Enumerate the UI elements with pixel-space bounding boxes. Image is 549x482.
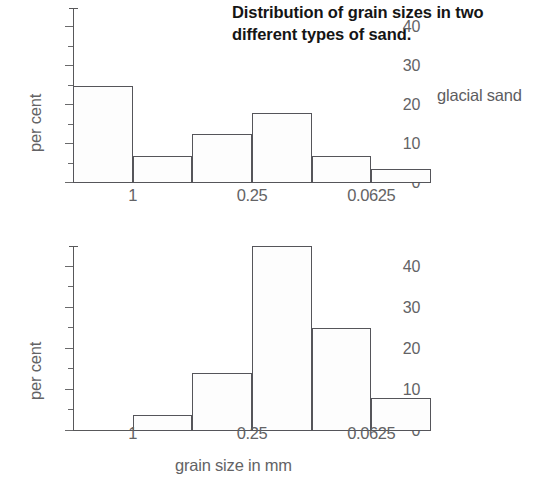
y-tick-0-glacial xyxy=(65,182,73,183)
x-tick-label-00625-beach: 0.0625 xyxy=(347,424,395,443)
x-tick-label-1-glacial: 1 xyxy=(128,186,137,205)
y-axis-title-beach: per cent xyxy=(26,342,45,400)
chart-panel-glacial-sand: per cent 40 30 20 10 0 1 0.25 0.0625 gla… xyxy=(0,0,549,222)
y-tick-label-30-beach: 30 xyxy=(403,299,420,317)
y-tick-5-beach xyxy=(68,409,73,410)
y-tick-label-40-glacial: 40 xyxy=(403,18,420,36)
y-tick-label-40-beach: 40 xyxy=(403,258,420,276)
y-tick-30-glacial xyxy=(65,65,73,66)
y-tick-label-20-beach: 20 xyxy=(403,340,420,358)
x-tick-labels-beach: 1 0.25 0.0625 xyxy=(73,424,431,448)
y-tick-label-10-beach: 10 xyxy=(403,381,420,399)
bar-glacial-bin-1 xyxy=(73,86,133,183)
y-tick-label-30-glacial: 30 xyxy=(403,57,420,75)
bar-beach-bin-3 xyxy=(192,373,252,431)
y-tick-25-beach xyxy=(68,327,73,328)
y-tick-15-beach xyxy=(68,368,73,369)
y-tick-30-beach xyxy=(65,307,73,308)
y-tick-10-glacial xyxy=(65,143,73,144)
x-tick-label-025-glacial: 0.25 xyxy=(237,186,268,205)
x-axis-title: grain size in mm xyxy=(175,456,292,475)
x-tick-labels-glacial: 1 0.25 0.0625 xyxy=(73,186,431,210)
plot-area-glacial: 40 30 20 10 0 xyxy=(73,8,431,183)
y-axis-top-cap-glacial xyxy=(69,8,78,9)
y-tick-40-glacial xyxy=(65,26,73,27)
series-label-glacial-sand: glacial sand xyxy=(437,86,522,105)
bar-beach-bin-5 xyxy=(312,328,372,431)
y-axis-line-beach xyxy=(73,246,74,431)
bar-glacial-bin-6 xyxy=(371,169,431,183)
y-axis-top-cap-beach xyxy=(69,246,78,247)
x-tick-label-025-beach: 0.25 xyxy=(237,424,268,443)
y-tick-label-10-glacial: 10 xyxy=(403,135,420,153)
bar-glacial-bin-2 xyxy=(133,156,193,183)
bar-glacial-bin-3 xyxy=(192,134,252,183)
bar-glacial-bin-4 xyxy=(252,113,312,183)
y-tick-35-glacial xyxy=(68,46,73,47)
x-tick-label-1-beach: 1 xyxy=(128,424,137,443)
y-tick-10-beach xyxy=(65,389,73,390)
bar-beach-bin-4 xyxy=(252,246,312,431)
plot-area-beach: 40 30 20 10 0 xyxy=(73,246,431,431)
x-tick-label-00625-glacial: 0.0625 xyxy=(347,186,395,205)
y-axis-title-glacial: per cent xyxy=(26,94,45,152)
y-tick-0-beach xyxy=(65,430,73,431)
y-tick-20-glacial xyxy=(65,104,73,105)
y-tick-40-beach xyxy=(65,266,73,267)
y-tick-35-beach xyxy=(68,286,73,287)
y-tick-20-beach xyxy=(65,348,73,349)
chart-panel-beach-sand: per cent 40 30 20 10 0 1 0.25 0.0625 bea… xyxy=(0,228,549,482)
y-tick-label-20-glacial: 20 xyxy=(403,96,420,114)
bar-glacial-bin-5 xyxy=(312,156,372,183)
